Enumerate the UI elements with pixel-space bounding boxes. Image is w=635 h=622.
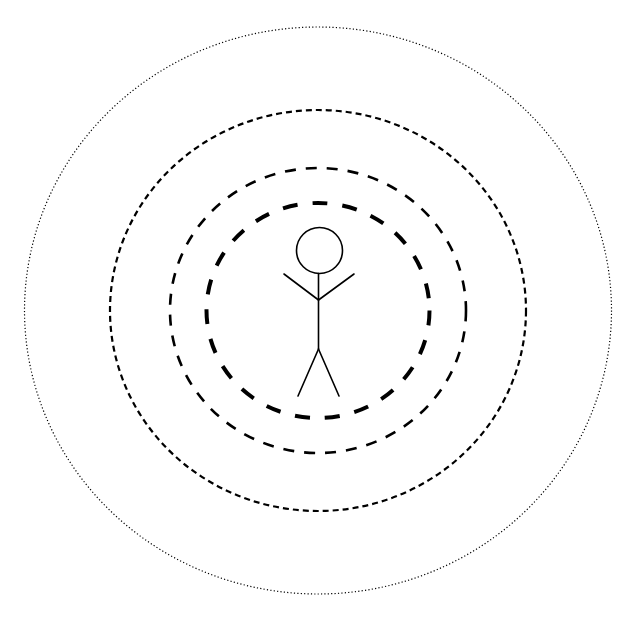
figure-left-leg	[298, 349, 319, 396]
figure-right-leg	[319, 349, 340, 396]
figure-head	[297, 228, 343, 274]
figure-left-arm	[284, 274, 319, 300]
figure-right-arm	[319, 274, 355, 300]
stick-figure-icon	[284, 228, 354, 397]
diagram-svg	[0, 0, 635, 622]
proxemics-diagram	[0, 0, 635, 622]
